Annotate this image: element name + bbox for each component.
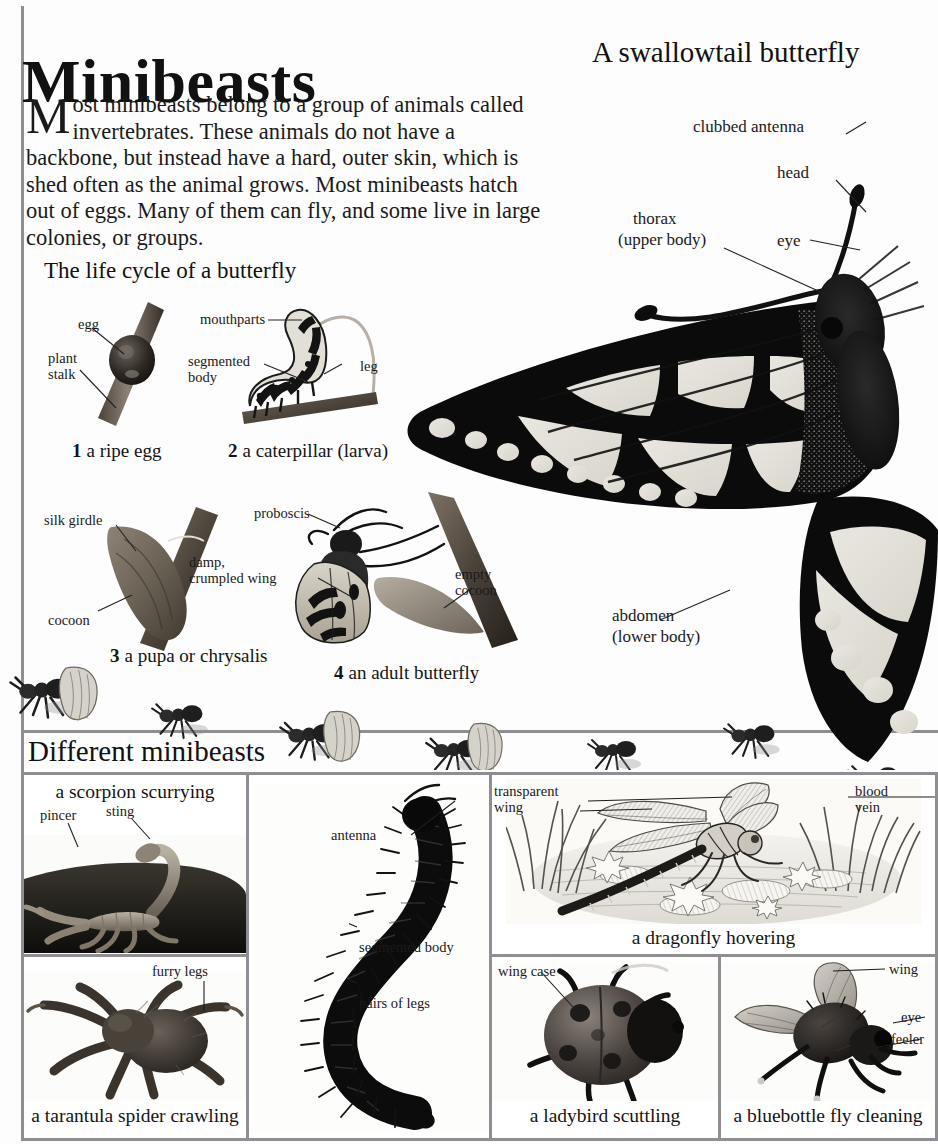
stage1-label-egg: egg bbox=[78, 316, 99, 332]
stage4-label-proboscis: proboscis bbox=[254, 505, 310, 521]
stage1-number: 1 bbox=[72, 440, 87, 461]
dragonfly-label-blood-vein-text: blood vein bbox=[855, 783, 888, 815]
panel-dragonfly: transparent wing blood vein a dragonfly … bbox=[492, 775, 935, 954]
dragonfly-label-transparent-wing-text: transparent wing bbox=[494, 783, 558, 815]
butterfly-label-thorax-line1: thorax bbox=[633, 211, 676, 227]
stage2-label-segmented-body-text: segmented body bbox=[188, 353, 250, 385]
butterfly-leader-lines bbox=[600, 100, 938, 660]
stage1-caption: 1a ripe egg bbox=[72, 440, 161, 462]
intro-dropcap: M bbox=[26, 94, 72, 136]
panel-bluebottle: wing eye feeler a bluebottle fly cleanin… bbox=[721, 957, 935, 1138]
panel-tarantula: furry legs a tarantula spider crawling bbox=[24, 957, 246, 1138]
panel-scorpion: a scorpion scurrying bbox=[24, 775, 246, 954]
page-root: Minibeasts A swallowtail butterfly Most … bbox=[0, 0, 938, 1144]
stage4-label-damp-crumpled-wing-text: damp, crumpled wing bbox=[189, 554, 276, 586]
butterfly-label-abdomen-line2: (lower body) bbox=[612, 629, 700, 645]
bluebottle-label-wing: wing bbox=[889, 961, 918, 977]
panel-millipede: a millipede wriggling bbox=[249, 775, 489, 1138]
bluebottle-caption: a bluebottle fly cleaning bbox=[721, 1105, 935, 1127]
stage4-label-empty-cocoon: empty cocoon bbox=[455, 566, 497, 598]
stage3-label-cocoon: cocoon bbox=[48, 612, 90, 628]
grid-bottom-edge bbox=[21, 1138, 938, 1141]
frame-left-rule-top bbox=[21, 6, 24, 733]
ladybird-image bbox=[492, 961, 718, 1101]
stage1-caption-text: a ripe egg bbox=[87, 440, 162, 461]
dragonfly-caption: a dragonfly hovering bbox=[492, 927, 935, 949]
scorpion-label-pincer: pincer bbox=[40, 807, 76, 823]
stage2-caption: 2a caterpillar (larva) bbox=[228, 440, 388, 462]
millipede-label-segmented-body: segmented body bbox=[359, 939, 454, 955]
butterfly-label-head: head bbox=[777, 165, 809, 181]
bluebottle-label-eye: eye bbox=[901, 1009, 921, 1025]
scorpion-caption: a scorpion scurrying bbox=[24, 781, 246, 803]
millipede-label-pairs-of-legs: pairs of legs bbox=[359, 995, 430, 1011]
stage1-label-plant-stalk: plant stalk bbox=[48, 350, 77, 382]
stage1-label-plant-stalk-text: plant stalk bbox=[48, 350, 77, 382]
scorpion-label-sting: sting bbox=[106, 803, 134, 819]
stage3-label-silk-girdle: silk girdle bbox=[44, 512, 102, 528]
ladybird-caption: a ladybird scuttling bbox=[492, 1105, 718, 1127]
ladybird-label-wing-case: wing case bbox=[498, 963, 556, 979]
butterfly-label-thorax-line2: (upper body) bbox=[618, 232, 706, 248]
stage2-label-segmented-body: segmented body bbox=[188, 353, 250, 385]
stage4-leader-lines bbox=[240, 504, 500, 624]
tarantula-label-furry-legs: furry legs bbox=[152, 963, 208, 979]
panel-ladybird: wing case a ladybird scuttling bbox=[492, 957, 718, 1138]
millipede-leader-lines bbox=[349, 795, 489, 995]
tarantula-leader-lines bbox=[192, 979, 216, 1015]
stage2-label-mouthparts: mouthparts bbox=[200, 311, 265, 327]
tarantula-caption: a tarantula spider crawling bbox=[24, 1105, 246, 1127]
stage2-number: 2 bbox=[228, 440, 243, 461]
bluebottle-label-feeler: feeler bbox=[891, 1031, 924, 1047]
stage4-label-damp-crumpled-wing: damp, crumpled wing bbox=[189, 554, 276, 586]
stage2-label-leg: leg bbox=[360, 358, 378, 374]
butterfly-label-eye: eye bbox=[777, 233, 801, 249]
millipede-label-antenna: antenna bbox=[331, 827, 376, 843]
butterfly-label-clubbed-antenna: clubbed antenna bbox=[693, 119, 804, 135]
swallowtail-subtitle: A swallowtail butterfly bbox=[592, 36, 859, 68]
dragonfly-label-blood-vein: blood vein bbox=[855, 783, 888, 815]
lifecycle-heading: The life cycle of a butterfly bbox=[44, 258, 296, 284]
stage4-label-empty-cocoon-text: empty cocoon bbox=[455, 566, 497, 598]
dragonfly-label-transparent-wing: transparent wing bbox=[494, 783, 558, 815]
butterfly-label-abdomen-line1: abdomen bbox=[612, 608, 674, 624]
ant-frieze bbox=[0, 660, 938, 770]
stage2-caption-text: a caterpillar (larva) bbox=[243, 440, 389, 461]
